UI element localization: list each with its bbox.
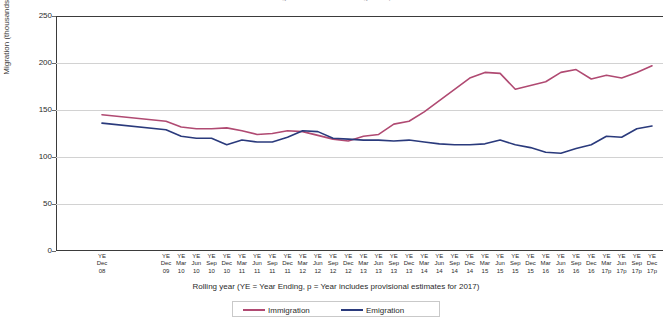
x-tick-label: YEDec17p: [637, 253, 667, 275]
x-axis-title: Rolling year (YE = Year Ending, p = Year…: [0, 282, 672, 291]
y-tick-label: 250: [26, 12, 52, 20]
legend-item-emigration: Emigration: [341, 305, 404, 315]
migration-line-chart: Long-Term International Migration, UK Mi…: [0, 0, 672, 321]
y-tick-label: 150: [26, 106, 52, 114]
series-layer: [56, 16, 663, 251]
y-tick-label: 50: [26, 200, 52, 208]
plot-area: [56, 16, 663, 251]
chart-title: Long-Term International Migration, UK: [0, 0, 672, 1]
y-tick-label: 200: [26, 59, 52, 67]
legend-label-immigration: Immigration: [268, 306, 310, 315]
y-tick-label: 100: [26, 153, 52, 161]
legend-item-immigration: Immigration: [243, 305, 310, 315]
series-line-immigration: [102, 66, 652, 141]
y-tickmark: [52, 251, 56, 252]
legend-swatch-emigration: [341, 309, 363, 311]
legend-label-emigration: Emigration: [366, 306, 404, 315]
legend-swatch-immigration: [243, 309, 265, 311]
y-axis-tick-labels: 050100150200250: [22, 0, 52, 321]
chart-legend: Immigration Emigration: [232, 301, 440, 317]
y-tick-label: 0: [26, 247, 52, 255]
y-axis-title: Migration (thousands): [2, 0, 11, 96]
x-axis-tick-labels: YEDec08YEDec09YEMar10YEJun10YESep10YEDec…: [56, 253, 663, 279]
x-tick-label: YEDec08: [87, 253, 117, 275]
